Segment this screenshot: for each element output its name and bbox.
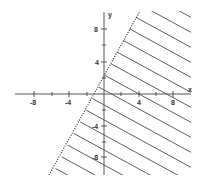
axes [15, 12, 191, 175]
x-tick-label: 8 [171, 99, 175, 106]
y-tick-label: -4 [92, 123, 98, 130]
x-tick-label: -8 [30, 99, 36, 106]
boundary-line [49, 11, 140, 175]
x-tick-label: -4 [65, 99, 71, 106]
hatch-shading [40, 0, 208, 187]
y-axis-label: y [108, 11, 112, 19]
x-axis-label: x [188, 86, 192, 93]
x-tick-label: 4 [137, 99, 141, 106]
y-tick-label: 4 [95, 59, 99, 66]
y-tick-label: -8 [92, 154, 98, 161]
y-tick-label: 8 [94, 26, 98, 33]
inequality-graph: x y -8 -4 4 8 8 4 -4 -8 [0, 0, 208, 187]
